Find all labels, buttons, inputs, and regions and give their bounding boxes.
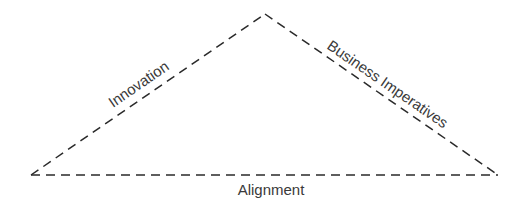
right-edge-business-imperatives [265, 14, 498, 175]
label-alignment: Alignment [238, 181, 306, 198]
left-edge-innovation [31, 14, 265, 175]
triangle-diagram: Innovation Business Imperatives Alignmen… [0, 0, 524, 213]
label-innovation: Innovation [105, 57, 172, 110]
triangle-svg: Innovation Business Imperatives Alignmen… [0, 0, 524, 213]
label-business-imperatives: Business Imperatives [324, 36, 451, 131]
